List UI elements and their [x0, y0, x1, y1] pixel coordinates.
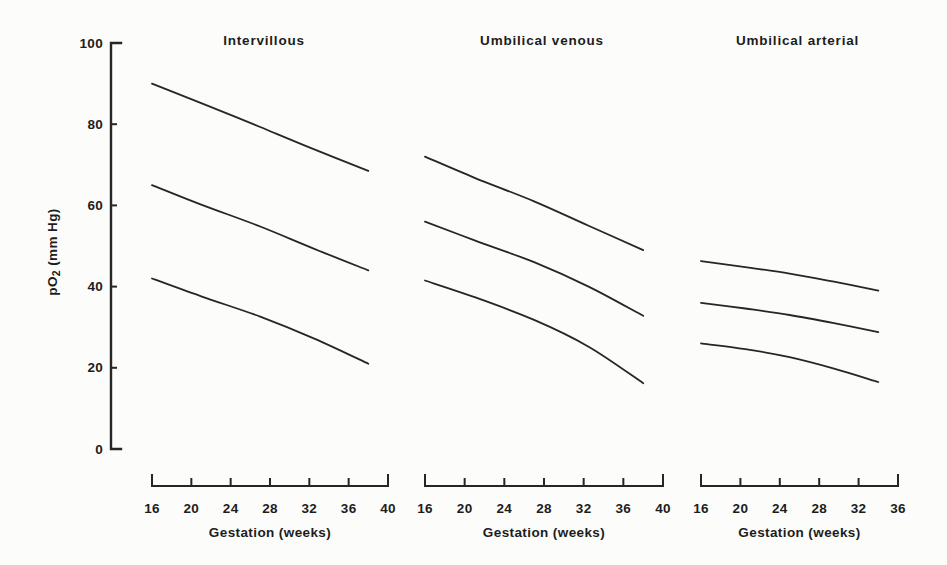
x-tick-label-umbilical-arterial-24: 24 [772, 501, 788, 516]
x-ruler-intervillous [152, 475, 388, 486]
x-tick-label-intervillous-24: 24 [223, 501, 239, 516]
x-ruler-umbilical-venous [425, 475, 663, 486]
y-axis-line [111, 43, 121, 449]
panel-title-umbilical-arterial: Umbilical arterial [736, 33, 859, 48]
y-tick-label-60: 60 [87, 198, 103, 213]
y-tick-label-0: 0 [95, 442, 103, 457]
panel-title-intervillous: Intervillous [223, 33, 305, 48]
curve-intervillous-lower-limit [152, 278, 368, 363]
y-tick-label-40: 40 [87, 279, 103, 294]
x-tick-label-umbilical-arterial-32: 32 [851, 501, 867, 516]
curve-umbilical-venous-upper-limit [425, 157, 643, 250]
y-axis: 020406080100pO2 (mm Hg) [45, 36, 121, 457]
x-tick-label-umbilical-arterial-36: 36 [890, 501, 906, 516]
x-tick-label-umbilical-venous-36: 36 [616, 501, 632, 516]
x-ruler-umbilical-arterial [701, 475, 898, 486]
curve-umbilical-arterial-upper-limit [701, 261, 878, 291]
y-tick-label-100: 100 [80, 36, 103, 51]
panel-umbilical-arterial: Umbilical arterial162024283236Gestation … [693, 33, 906, 540]
x-tick-label-intervillous-36: 36 [341, 501, 357, 516]
chart-canvas: 020406080100pO2 (mm Hg)Intervillous16202… [0, 0, 947, 565]
x-tick-label-umbilical-arterial-20: 20 [733, 501, 749, 516]
panel-umbilical-venous: Umbilical venous16202428323640Gestation … [417, 33, 671, 540]
x-tick-label-intervillous-28: 28 [262, 501, 278, 516]
curve-intervillous-upper-limit [152, 84, 368, 171]
x-axis-label-umbilical-arterial: Gestation (weeks) [738, 525, 860, 540]
panel-title-umbilical-venous: Umbilical venous [480, 33, 604, 48]
x-tick-label-intervillous-40: 40 [380, 501, 396, 516]
x-tick-label-umbilical-venous-32: 32 [576, 501, 592, 516]
x-tick-label-umbilical-venous-28: 28 [536, 501, 552, 516]
x-tick-label-intervillous-32: 32 [302, 501, 318, 516]
curve-umbilical-arterial-mean [701, 303, 878, 332]
figure-container: 020406080100pO2 (mm Hg)Intervillous16202… [0, 0, 947, 565]
panel-intervillous: Intervillous16202428323640Gestation (wee… [144, 33, 396, 540]
x-tick-label-umbilical-arterial-16: 16 [693, 501, 709, 516]
y-axis-label: pO2 (mm Hg) [45, 208, 62, 296]
x-tick-label-umbilical-venous-40: 40 [655, 501, 671, 516]
y-tick-label-20: 20 [87, 360, 103, 375]
y-tick-label-80: 80 [87, 117, 103, 132]
x-tick-label-intervillous-20: 20 [184, 501, 200, 516]
curve-umbilical-venous-lower-limit [425, 281, 643, 384]
x-tick-label-umbilical-venous-16: 16 [417, 501, 433, 516]
x-tick-label-intervillous-16: 16 [144, 501, 160, 516]
curve-intervillous-mean [152, 185, 368, 270]
curve-umbilical-arterial-lower-limit [701, 343, 878, 382]
x-tick-label-umbilical-arterial-28: 28 [811, 501, 827, 516]
x-tick-label-umbilical-venous-24: 24 [497, 501, 513, 516]
x-axis-label-umbilical-venous: Gestation (weeks) [483, 525, 605, 540]
x-axis-label-intervillous: Gestation (weeks) [209, 525, 331, 540]
x-tick-label-umbilical-venous-20: 20 [457, 501, 473, 516]
